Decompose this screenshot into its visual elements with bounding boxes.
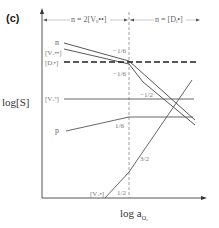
x-axis-label: log aO₂ [120, 207, 148, 221]
line-p [66, 117, 193, 131]
y-axis-label: log[S] [2, 96, 30, 108]
y-axis-arrow-icon [40, 8, 44, 14]
y-axis [40, 8, 44, 198]
slope-vo-d-upper: 3/2 [140, 155, 149, 163]
defect-diagram: (c) log[S] log aO₂ n = 2[Vₒ••] n = [Dᵢ•]… [0, 0, 219, 228]
label-p: p [55, 126, 59, 135]
panel-label: (c) [6, 12, 20, 24]
slope-p-left: 1/6 [115, 122, 124, 130]
slope-vo-d-lower: 1/2 [117, 189, 126, 197]
label-vo-single: [Vₒ•] [90, 190, 104, 198]
label-vo-neutral: [Vₒˣ] [45, 95, 59, 103]
label-di: [Dᵢ•] [45, 59, 58, 67]
line-vo-double [64, 49, 195, 125]
slope-n-right: −1/2 [140, 91, 153, 99]
label-vo-double: [Vₒ••] [45, 49, 62, 57]
x-axis-arrow-icon [201, 196, 207, 200]
svg-text:n = 2[Vₒ••]: n = 2[Vₒ••] [71, 15, 107, 24]
svg-text:n = [Dᵢ•]: n = [Dᵢ•] [155, 15, 183, 24]
region-left: n = 2[Vₒ••] [43, 15, 128, 24]
label-n: n [55, 38, 59, 47]
slope-n-left: −1/6 [113, 47, 126, 55]
region-right: n = [Dᵢ•] [130, 15, 200, 24]
slope-vo-dd-left: −1/6 [113, 70, 126, 78]
